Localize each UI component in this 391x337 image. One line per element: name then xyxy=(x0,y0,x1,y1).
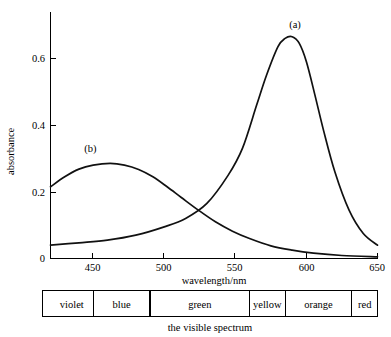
chart-series-group xyxy=(51,36,378,256)
y-tick-label-2: 0.4 xyxy=(32,120,46,131)
spectrum-band-blue: blue xyxy=(113,299,131,310)
x-axis-tick-labels: 450 500 550 600 650 xyxy=(85,262,385,273)
chart-figure: 0 0.2 0.4 0.6 absorbance 450 500 550 600… xyxy=(0,0,391,337)
x-tick-label-1: 500 xyxy=(156,262,172,273)
spectrum-band-green: green xyxy=(188,299,212,310)
x-tick-label-0: 450 xyxy=(85,262,101,273)
curve-a-label: (a) xyxy=(289,19,301,31)
curve-annotations: (a) (b) xyxy=(84,19,301,154)
y-axis-title: absorbance xyxy=(5,127,16,175)
spectrum-band-yellow: yellow xyxy=(253,299,282,310)
y-axis-tick-labels: 0 0.2 0.4 0.6 xyxy=(32,53,46,264)
spectrum-band-violet: violet xyxy=(60,299,84,310)
curve-b-label: (b) xyxy=(84,143,97,155)
spectrum-band-red: red xyxy=(358,299,372,310)
x-tick-label-4: 650 xyxy=(369,262,385,273)
spectrum-band-orange: orange xyxy=(304,299,333,310)
visible-spectrum-bar: violetbluegreenyelloworangered xyxy=(43,291,378,317)
x-axis-title: wavelength/nm xyxy=(182,275,247,286)
spectrum-caption: the visible spectrum xyxy=(168,322,253,333)
x-tick-label-3: 600 xyxy=(299,262,315,273)
y-tick-label-0: 0 xyxy=(40,253,45,264)
x-tick-label-2: 550 xyxy=(227,262,243,273)
y-tick-label-3: 0.6 xyxy=(32,53,45,64)
absorbance-spectrum-chart: 0 0.2 0.4 0.6 absorbance 450 500 550 600… xyxy=(0,0,391,337)
curve-a-absorbance xyxy=(51,36,378,245)
curve-b-absorbance xyxy=(51,163,378,256)
y-axis-ticks xyxy=(51,59,57,259)
y-tick-label-1: 0.2 xyxy=(32,187,45,198)
